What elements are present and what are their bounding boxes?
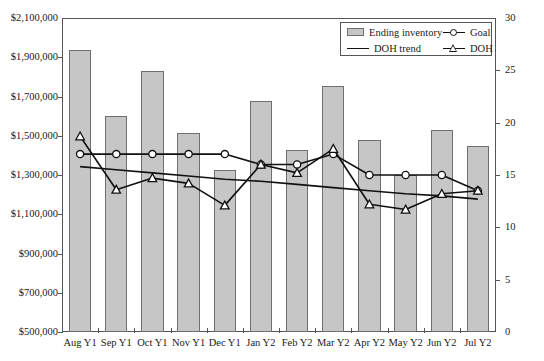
bar: [358, 140, 380, 332]
y-axis-right-tick: [495, 175, 500, 176]
chart-legend: Ending inventory Goal DOH trend DOH: [340, 22, 492, 56]
y-axis-left-tick: [58, 332, 63, 333]
x-axis-tick: [98, 328, 99, 333]
x-axis-tick-label: Mar Y2: [315, 337, 351, 349]
legend-entry-doh: DOH: [443, 40, 493, 56]
x-axis-tick-label: Dec Y1: [207, 337, 243, 349]
y-axis-right-tick: [495, 70, 500, 71]
bar: [322, 86, 344, 332]
y-axis-left-tick: [58, 214, 63, 215]
x-axis-tick-label: Aug Y1: [62, 337, 98, 349]
x-axis-tick: [351, 328, 352, 333]
bar-swatch-icon: [347, 28, 364, 36]
x-axis-tick: [388, 328, 389, 333]
legend-label-doh: DOH: [470, 43, 493, 54]
legend-entry-ending-inventory: Ending inventory: [347, 24, 442, 40]
x-axis-tick-label: May Y2: [388, 337, 424, 349]
x-axis-tick-label: Oct Y1: [134, 337, 170, 349]
x-axis-tick-label: Jan Y2: [243, 337, 279, 349]
y-axis-right-tick-label: 25: [505, 65, 531, 75]
chart-root: $2,100,000$1,900,000$1,700,000$1,500,000…: [0, 0, 544, 361]
y-axis-left-tick-label: $2,100,000: [2, 13, 58, 23]
plain-line-icon: [347, 48, 369, 49]
y-axis-left-tick-label: $700,000: [2, 288, 58, 298]
y-axis-left-tick-label: $900,000: [2, 249, 58, 259]
bar: [105, 116, 127, 332]
y-axis-left-tick: [58, 136, 63, 137]
x-axis-tick: [134, 328, 135, 333]
x-axis-tick-label: Sep Y1: [98, 337, 134, 349]
y-axis-left-tick-label: $1,700,000: [2, 92, 58, 102]
y-axis-left-tick: [58, 57, 63, 58]
y-axis-right-tick: [495, 280, 500, 281]
bar: [467, 146, 489, 332]
y-axis-left-tick: [58, 293, 63, 294]
legend-label-ending-inventory: Ending inventory: [369, 27, 442, 38]
y-axis-right-tick-label: 0: [505, 327, 531, 337]
bar: [177, 133, 199, 332]
y-axis-right-tick: [495, 123, 500, 124]
x-axis-tick: [171, 328, 172, 333]
y-axis-left-tick: [58, 254, 63, 255]
y-axis-left-tick-label: $1,900,000: [2, 52, 58, 62]
y-axis-right-tick-label: 10: [505, 222, 531, 232]
x-axis-tick: [279, 328, 280, 333]
line-circle-marker-icon: [443, 27, 465, 37]
legend-entry-doh-trend: DOH trend: [347, 40, 421, 56]
x-axis-tick-label: Feb Y2: [279, 337, 315, 349]
x-axis-tick: [315, 328, 316, 333]
y-axis-left-tick-label: $1,500,000: [2, 131, 58, 141]
legend-label-doh-trend: DOH trend: [374, 43, 421, 54]
x-axis-tick: [424, 328, 425, 333]
x-axis-tick-label: Jun Y2: [424, 337, 460, 349]
y-axis-right-tick-label: 20: [505, 118, 531, 128]
bar: [141, 71, 163, 332]
y-axis-right-tick-label: 15: [505, 170, 531, 180]
y-axis-right-tick: [495, 227, 500, 228]
bar: [431, 130, 453, 332]
line-triangle-marker-icon: [443, 43, 465, 53]
bar: [394, 175, 416, 332]
bar: [250, 101, 272, 332]
y-axis-left-tick: [58, 97, 63, 98]
x-axis-tick-label: Jul Y2: [460, 337, 496, 349]
y-axis-left-tick: [58, 175, 63, 176]
y-axis-right-tick-label: 30: [505, 13, 531, 23]
y-axis-left-tick-label: $1,100,000: [2, 209, 58, 219]
y-axis-left-tick-label: $500,000: [2, 327, 58, 337]
bar: [214, 170, 236, 332]
y-axis-left-tick-label: $1,300,000: [2, 170, 58, 180]
legend-label-goal: Goal: [470, 27, 490, 38]
y-axis-right-tick-label: 5: [505, 275, 531, 285]
x-axis-tick-label: Nov Y1: [171, 337, 207, 349]
x-axis-tick: [460, 328, 461, 333]
x-axis-tick: [207, 328, 208, 333]
bar: [286, 150, 308, 332]
x-axis-tick-label: Apr Y2: [351, 337, 387, 349]
bar: [69, 50, 91, 332]
x-axis-tick: [243, 328, 244, 333]
legend-entry-goal: Goal: [443, 24, 490, 40]
